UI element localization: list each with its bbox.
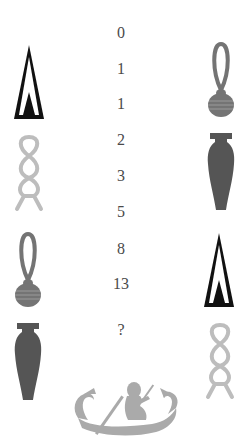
- sequence-number-1: 0: [96, 24, 146, 42]
- cone-icon: [13, 44, 45, 121]
- sequence-number-7: 8: [96, 240, 146, 258]
- cone-icon: [203, 232, 235, 309]
- knot-icon: [13, 232, 43, 310]
- sequence-number-3: 1: [96, 95, 146, 113]
- sequence-question-mark: ?: [96, 321, 146, 339]
- boat-icon: [72, 380, 182, 438]
- sequence-number-4: 2: [96, 131, 146, 149]
- rope-icon: [14, 134, 44, 212]
- sequence-number-8: 13: [96, 275, 146, 293]
- knot-icon: [206, 42, 236, 120]
- sequence-number-2: 1: [96, 60, 146, 78]
- vase-icon: [206, 132, 236, 212]
- sequence-number-5: 3: [96, 167, 146, 185]
- rope-icon: [205, 322, 235, 400]
- sequence-number-6: 5: [96, 203, 146, 221]
- vase-icon: [13, 322, 43, 402]
